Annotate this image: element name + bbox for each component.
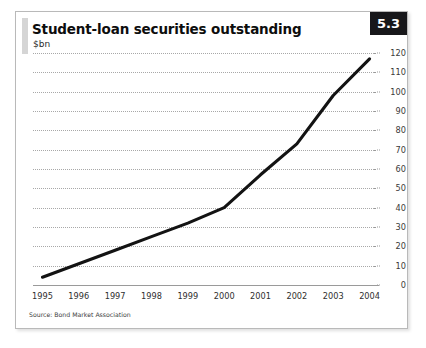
x-axis-label: 2004 — [359, 291, 380, 301]
y-axis-tick — [374, 72, 380, 73]
chart-title: Student-loan securities outstanding — [32, 21, 302, 37]
y-axis-tick — [374, 53, 380, 54]
x-axis-label: 1997 — [105, 291, 126, 301]
x-axis-label: 1996 — [68, 291, 89, 301]
x-axis-label: 1998 — [141, 291, 162, 301]
y-axis-tick — [374, 188, 380, 189]
y-axis-label: 90 — [382, 106, 406, 116]
data-series-line — [42, 59, 369, 277]
y-axis-tick — [374, 285, 380, 286]
y-axis-label: 70 — [382, 145, 406, 155]
y-axis-label: 100 — [382, 87, 406, 97]
chart-card: Student-loan securities outstanding $bn … — [15, 11, 408, 329]
data-line-chart — [33, 53, 379, 286]
y-axis-tick — [374, 91, 380, 92]
figure-number-badge: 5.3 — [370, 12, 407, 35]
x-axis-label: 2001 — [250, 291, 271, 301]
y-axis-tick — [374, 246, 380, 247]
y-axis-label: 30 — [382, 222, 406, 232]
y-axis-tick — [374, 149, 380, 150]
y-axis-tick — [374, 265, 380, 266]
x-axis-label: 1999 — [177, 291, 198, 301]
y-axis-tick — [374, 111, 380, 112]
y-axis-label: 40 — [382, 203, 406, 213]
x-axis-baseline — [33, 285, 379, 286]
x-axis-label: 2002 — [286, 291, 307, 301]
y-axis-label: 110 — [382, 67, 406, 77]
y-axis-tick — [374, 207, 380, 208]
y-axis-label: 0 — [382, 280, 406, 290]
y-axis-label: 60 — [382, 164, 406, 174]
y-axis-label: 10 — [382, 261, 406, 271]
chart-subtitle: $bn — [33, 39, 50, 49]
source-note: Source: Bond Market Association — [29, 311, 131, 318]
title-accent-bar — [22, 18, 28, 54]
y-axis-label: 80 — [382, 125, 406, 135]
y-axis-tick — [374, 169, 380, 170]
x-axis-label: 2000 — [214, 291, 235, 301]
x-axis-label: 2003 — [323, 291, 344, 301]
card-header: Student-loan securities outstanding $bn … — [16, 12, 407, 58]
y-axis-label: 120 — [382, 48, 406, 58]
y-axis-label: 20 — [382, 241, 406, 251]
y-axis-label: 50 — [382, 183, 406, 193]
x-axis-label: 1995 — [32, 291, 53, 301]
y-axis-tick — [374, 130, 380, 131]
y-axis-tick — [374, 227, 380, 228]
